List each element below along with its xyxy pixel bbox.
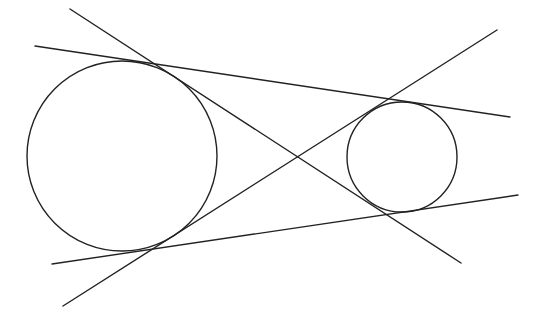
diagram-svg (0, 0, 544, 320)
tangent-lines-diagram (0, 0, 544, 320)
external-tangent-top (35, 46, 510, 117)
small-circle (347, 102, 457, 212)
internal-tangent-descending (70, 9, 461, 263)
external-tangent-bottom (52, 195, 518, 264)
internal-tangent-ascending (63, 30, 497, 306)
large-circle (27, 61, 217, 251)
